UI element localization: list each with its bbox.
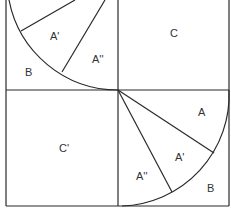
label-bottom-right-a-prime: A' [175,151,184,163]
dissection-diagram: A' A'' B C C' A A' A'' B [0,0,231,210]
label-top-right-c: C [170,27,178,39]
label-bottom-right-a: A [198,106,206,118]
top-left-radius-1 [21,0,75,31]
label-bottom-left-c-prime: C' [59,142,69,154]
label-top-left-a-prime: A' [50,30,59,42]
label-bottom-right-b: B [207,182,214,194]
bottom-right-radius-1 [118,90,214,153]
label-top-left-b: B [25,66,32,78]
label-bottom-right-a-double-prime: A'' [136,170,148,182]
label-top-left-a-double-prime: A'' [92,53,104,65]
